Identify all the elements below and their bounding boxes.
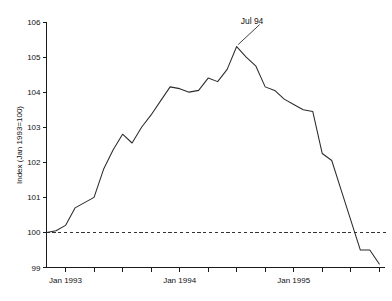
y-axis-group: 99100101102103104105106 Index (Jan 1993=… — [15, 18, 47, 273]
y-tick-label: 104 — [27, 88, 41, 97]
y-tick-label: 100 — [27, 228, 41, 237]
line-chart-canvas: 99100101102103104105106 Index (Jan 1993=… — [0, 0, 392, 301]
y-tick-label: 103 — [27, 123, 41, 132]
y-tick-label: 99 — [32, 264, 41, 273]
x-tick-label: Jan 1995 — [277, 276, 310, 285]
annotation-label-jul94: Jul 94 — [241, 16, 264, 26]
y-axis-ticks — [43, 22, 47, 268]
y-axis-title: Index (Jan 1993=100) — [15, 106, 24, 184]
y-tick-label: 106 — [27, 18, 41, 27]
y-axis-tick-labels: 99100101102103104105106 — [27, 18, 41, 273]
x-axis-tick-labels: Jan 1993Jan 1994Jan 1995 — [49, 276, 311, 285]
peak-annotation: Jul 94 — [238, 16, 263, 45]
y-tick-label: 102 — [27, 158, 41, 167]
annotation-leader-line — [238, 25, 260, 45]
chart-figure: 99100101102103104105106 Index (Jan 1993=… — [0, 0, 392, 301]
y-tick-label: 101 — [27, 193, 41, 202]
x-tick-label: Jan 1993 — [49, 276, 82, 285]
x-tick-label: Jan 1994 — [163, 276, 196, 285]
y-tick-label: 105 — [27, 53, 41, 62]
x-axis-ticks — [66, 268, 380, 272]
index-series-line — [47, 47, 380, 264]
x-axis-group: Jan 1993Jan 1994Jan 1995 — [47, 268, 386, 285]
